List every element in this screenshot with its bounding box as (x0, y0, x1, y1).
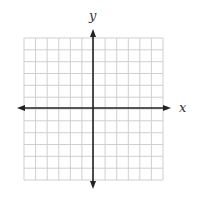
coordinate-plane: x y (0, 0, 197, 197)
y-axis-arrow-down-icon (90, 181, 96, 189)
x-axis-arrow-left-icon (17, 105, 25, 111)
y-axis-label: y (88, 8, 97, 23)
y-axis-arrow-up-icon (90, 29, 96, 37)
x-axis-arrow-right-icon (163, 105, 171, 111)
x-axis-label: x (179, 100, 187, 115)
